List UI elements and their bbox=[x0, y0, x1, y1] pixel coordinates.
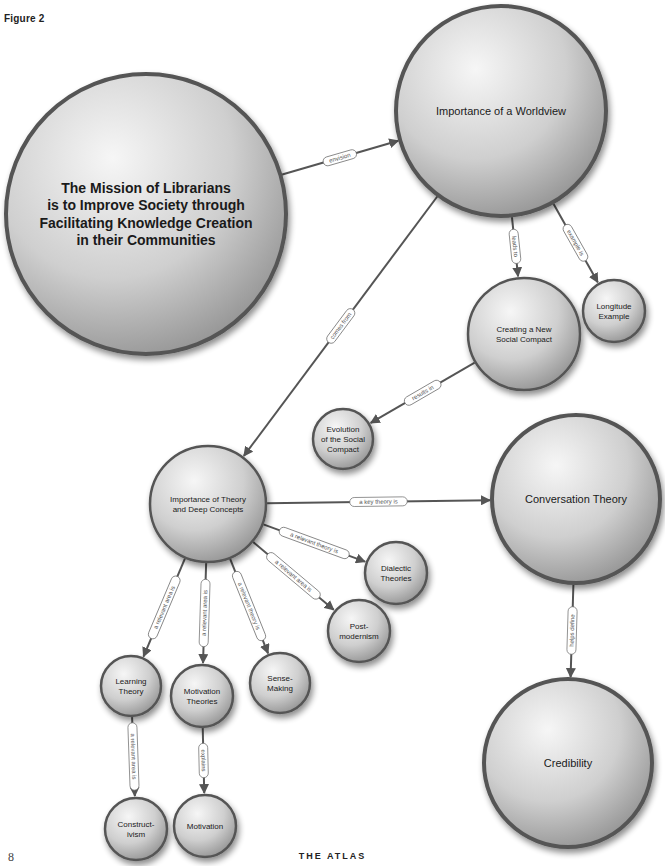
edge-label: envision bbox=[322, 149, 358, 167]
edge-label-text: a relevant theory is bbox=[237, 581, 261, 630]
node-learning: LearningTheory bbox=[101, 656, 161, 716]
edge-label-text: a relevant theory is bbox=[289, 531, 339, 554]
node-label: ivism bbox=[127, 830, 146, 839]
node-conversation: Conversation Theory bbox=[492, 415, 660, 583]
node-label: Motivation bbox=[187, 822, 223, 831]
node-credibility: Credibility bbox=[484, 679, 652, 847]
edge-label: leads to bbox=[509, 229, 521, 264]
edge-label: a relevant area is bbox=[265, 551, 322, 601]
edge-label: comes from bbox=[325, 307, 357, 345]
edge-label-text: a key theory is bbox=[359, 498, 398, 505]
nodes-layer: The Mission of Librariansis to Improve S… bbox=[6, 6, 660, 860]
footer-title: THE ATLAS bbox=[0, 851, 665, 861]
node-motivation: Motivation bbox=[174, 795, 236, 857]
edge-label-text: explains bbox=[200, 749, 207, 771]
node-longitude: LongitudeExample bbox=[583, 280, 645, 342]
edge-label: a relevant area is bbox=[128, 723, 139, 791]
edge-label-text: comes from bbox=[329, 312, 353, 341]
node-label: Creating a New bbox=[496, 325, 551, 334]
node-worldview: Importance of a Worldview bbox=[396, 6, 606, 216]
node-label: Social Compact bbox=[496, 335, 553, 344]
node-label: The Mission of Librarians bbox=[61, 180, 231, 196]
edge-label: a key theory is bbox=[350, 497, 408, 507]
node-label: Making bbox=[267, 684, 293, 693]
node-label: Importance of Theory bbox=[170, 495, 246, 504]
node-postmodernism: Post-modernism bbox=[328, 600, 390, 662]
node-label: Importance of a Worldview bbox=[436, 105, 566, 117]
node-label: modernism bbox=[339, 632, 379, 641]
edge-label: a relevant theory is bbox=[278, 526, 351, 560]
node-label: Evolution bbox=[327, 425, 360, 434]
node-evolution: Evolutionof the SocialCompact bbox=[313, 409, 373, 469]
node-label: Construct- bbox=[118, 820, 155, 829]
edge-label-text: a relevant area is bbox=[274, 559, 313, 593]
node-label: Compact bbox=[327, 445, 360, 454]
node-label: Longitude bbox=[596, 302, 632, 311]
node-label: Dialectic bbox=[381, 564, 411, 573]
node-label: Sense- bbox=[267, 674, 293, 683]
node-social-compact: Creating a NewSocial Compact bbox=[468, 278, 580, 390]
edge-label: a relevant area is bbox=[199, 579, 210, 647]
node-label: Theories bbox=[380, 574, 411, 583]
edge-label: helps define bbox=[567, 607, 577, 655]
node-label: Post- bbox=[350, 622, 369, 631]
node-label: Example bbox=[598, 312, 630, 321]
edge-label: a relevant area is bbox=[147, 575, 182, 641]
node-label: Credibility bbox=[544, 757, 593, 769]
node-sensemaking: Sense-Making bbox=[250, 653, 310, 713]
node-label: Motivation bbox=[184, 687, 220, 696]
node-motivation-theories: MotivationTheories bbox=[171, 665, 233, 727]
node-mission: The Mission of Librariansis to Improve S… bbox=[6, 74, 286, 354]
node-label: Theory bbox=[119, 687, 144, 696]
edge-label: example is bbox=[561, 223, 589, 263]
node-theory: Importance of Theoryand Deep Concepts bbox=[150, 446, 266, 562]
node-label: Learning bbox=[115, 677, 146, 686]
node-label: Conversation Theory bbox=[525, 493, 627, 505]
node-label: and Deep Concepts bbox=[173, 505, 244, 514]
node-label: of the Social bbox=[321, 435, 365, 444]
node-label: in their Communities bbox=[76, 232, 215, 248]
edge-label: explains bbox=[199, 743, 209, 778]
edge-label-text: helps define bbox=[569, 614, 576, 647]
concept-map: The Mission of Librariansis to Improve S… bbox=[0, 0, 665, 866]
edge-label: results in bbox=[403, 379, 443, 407]
node-dialectic: DialecticTheories bbox=[365, 542, 427, 604]
node-label: Facilitating Knowledge Creation bbox=[39, 215, 252, 231]
edge-label-text: a relevant area is bbox=[153, 585, 176, 630]
node-label: is to Improve Society through bbox=[47, 197, 245, 213]
edge-label: a relevant theory is bbox=[231, 570, 267, 642]
node-label: Theories bbox=[186, 697, 217, 706]
